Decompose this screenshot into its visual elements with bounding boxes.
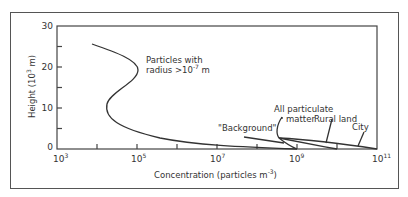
svg-text:Concentration (particles m-3): Concentration (particles m-3) xyxy=(154,168,277,180)
curve-all-particulate xyxy=(277,117,282,138)
x-tick-1e11: 1011 xyxy=(372,152,391,164)
y-tick-30: 30 xyxy=(42,21,54,31)
svg-text:1011: 1011 xyxy=(372,152,391,164)
city-pointer xyxy=(358,132,364,146)
label-background: "Background" xyxy=(218,123,277,133)
y-tick-10: 10 xyxy=(42,103,54,113)
y-axis-title: Height (103 m) xyxy=(25,55,37,118)
svg-text:107: 107 xyxy=(210,152,225,164)
svg-text:109: 109 xyxy=(289,152,304,164)
background-pointer xyxy=(244,137,284,143)
x-tick-1e9: 109 xyxy=(289,152,304,164)
x-tick-1e7: 107 xyxy=(210,152,225,164)
label-all-particulate-line1: All particulate xyxy=(274,104,333,114)
svg-text:105: 105 xyxy=(131,152,146,164)
y-axis-ticks xyxy=(57,47,62,129)
label-rural-land: Rural land xyxy=(314,114,357,124)
figure-frame xyxy=(11,13,399,189)
svg-text:Height (103 m): Height (103 m) xyxy=(25,55,37,118)
height-concentration-chart: 30 20 10 0 103 105 107 109 1011 Concentr… xyxy=(0,0,408,197)
svg-text:103: 103 xyxy=(53,152,68,164)
x-tick-1e5: 105 xyxy=(131,152,146,164)
svg-text:radius >10-7 m: radius >10-7 m xyxy=(146,63,210,75)
label-particles-line2: radius >10-7 m xyxy=(146,63,210,75)
x-axis-title: Concentration (particles m-3) xyxy=(154,168,277,180)
label-all-particulate-line2: matter xyxy=(286,114,315,124)
y-tick-20: 20 xyxy=(42,62,54,72)
y-tick-0: 0 xyxy=(47,142,53,152)
x-tick-1e3: 103 xyxy=(53,152,68,164)
label-city: City xyxy=(352,122,369,132)
